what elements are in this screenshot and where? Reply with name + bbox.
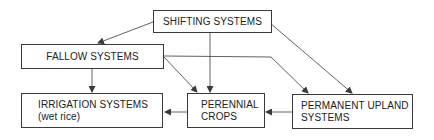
node-label-line2: CROPS — [201, 111, 264, 123]
edge-shifting-to-permanent — [270, 23, 352, 93]
node-label-line2: (wet rice) — [38, 111, 162, 123]
edge-fallow-to-perennial — [164, 57, 197, 92]
diagram-canvas: SHIFTING SYSTEMS FALLOW SYSTEMS IRRIGATI… — [0, 0, 434, 140]
node-shifting-systems: SHIFTING SYSTEMS — [153, 10, 272, 33]
node-perennial-crops: PERENNIAL CROPS — [187, 93, 265, 128]
node-fallow-systems: FALLOW SYSTEMS — [21, 44, 164, 69]
node-irrigation-systems: IRRIGATION SYSTEMS (wet rice) — [21, 93, 163, 128]
node-label-line1: PERMANENT UPLAND — [301, 100, 412, 112]
node-label-line2: SYSTEMS — [301, 112, 412, 124]
node-label-line1: PERENNIAL — [201, 99, 264, 111]
node-permanent-upland-systems: PERMANENT UPLAND SYSTEMS — [292, 94, 413, 129]
edge-fallow-to-permanent — [164, 56, 308, 93]
edge-shifting-to-fallow — [98, 22, 153, 43]
node-label: FALLOW SYSTEMS — [46, 51, 139, 63]
node-label: SHIFTING SYSTEMS — [163, 16, 262, 28]
node-label-line1: IRRIGATION SYSTEMS — [38, 99, 162, 111]
